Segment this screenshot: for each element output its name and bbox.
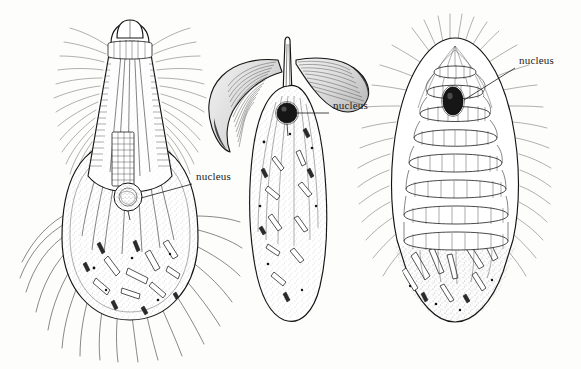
label-nucleus-left: nucleus: [196, 170, 231, 182]
label-nucleus-middle: nucleus: [333, 99, 368, 111]
organism-right-nucleus: [442, 86, 465, 117]
organism-right-band-loop-5: [409, 154, 502, 172]
organism-right-band-loop-4: [414, 130, 497, 147]
organism-right-band-loop-6: [406, 180, 506, 198]
organism-left: [20, 20, 242, 362]
scientific-illustration-figure: nucleus nucleus nucleus: [0, 0, 581, 369]
organism-right-band-loop-7: [404, 206, 508, 224]
organism-left-nucleus: [114, 183, 142, 211]
organism-left-collar-ring: [108, 40, 152, 60]
organism-middle-nucleus: [276, 102, 299, 125]
organism-left-girdle-band: [112, 132, 134, 186]
illustration-canvas: [0, 0, 581, 369]
organism-right-band-loop-8: [404, 232, 508, 250]
organism-middle: [209, 37, 369, 328]
label-nucleus-right: nucleus: [519, 54, 554, 66]
